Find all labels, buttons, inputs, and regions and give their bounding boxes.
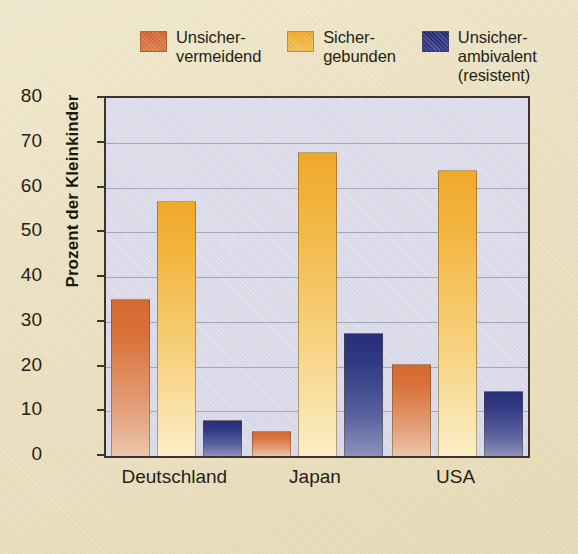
- legend-label-series-0: Unsicher- vermeidend: [176, 28, 261, 66]
- x-tick-label-deutschland: Deutschland: [122, 466, 228, 488]
- legend-label-series-2: Unsicher- ambivalent (resistent): [458, 28, 537, 85]
- bar-japan-series-2[interactable]: [344, 333, 383, 456]
- chart-figure: Unsicher- vermeidend Sicher- gebunden Un…: [0, 0, 578, 554]
- legend-item-sicher-gebunden[interactable]: Sicher- gebunden: [287, 28, 396, 66]
- y-tick-mark: [97, 275, 104, 277]
- bar-japan-series-1[interactable]: [298, 152, 337, 456]
- y-axis-title: Prozent der Kleinkinder: [63, 41, 83, 341]
- plot-area: [104, 96, 530, 458]
- chart-legend: Unsicher- vermeidend Sicher- gebunden Un…: [140, 28, 560, 90]
- legend-label-series-1: Sicher- gebunden: [323, 28, 396, 66]
- y-tick-mark: [97, 409, 104, 411]
- legend-swatch-icon-series-2: [422, 31, 449, 52]
- y-tick-label: 10: [0, 398, 42, 420]
- bar-usa-series-0[interactable]: [392, 364, 431, 456]
- legend-swatch-icon-series-1: [287, 31, 314, 52]
- y-tick-mark: [97, 141, 104, 143]
- y-tick-mark: [97, 365, 104, 367]
- x-tick-label-usa: USA: [436, 466, 475, 488]
- bar-usa-series-1[interactable]: [438, 170, 477, 456]
- bar-deutschland-series-0[interactable]: [111, 299, 150, 456]
- y-tick-label: 0: [0, 443, 42, 465]
- y-tick-mark: [97, 186, 104, 188]
- y-tick-label: 60: [0, 175, 42, 197]
- y-tick-label: 80: [0, 85, 42, 107]
- y-tick-mark: [97, 320, 104, 322]
- legend-item-unsicher-ambivalent[interactable]: Unsicher- ambivalent (resistent): [422, 28, 537, 85]
- y-tick-label: 50: [0, 219, 42, 241]
- y-tick-mark: [97, 454, 104, 456]
- y-tick-label: 30: [0, 309, 42, 331]
- y-tick-label: 20: [0, 354, 42, 376]
- legend-swatch-icon-series-0: [140, 31, 167, 52]
- bar-usa-series-2[interactable]: [484, 391, 523, 456]
- bar-japan-series-0[interactable]: [252, 431, 291, 456]
- gridline: [106, 143, 528, 144]
- legend-item-unsicher-vermeidend[interactable]: Unsicher- vermeidend: [140, 28, 261, 66]
- y-tick-label: 40: [0, 264, 42, 286]
- bar-deutschland-series-1[interactable]: [157, 201, 196, 456]
- y-tick-mark: [97, 230, 104, 232]
- y-tick-label: 70: [0, 130, 42, 152]
- x-tick-label-japan: Japan: [289, 466, 341, 488]
- bar-deutschland-series-2[interactable]: [203, 420, 242, 456]
- y-tick-mark: [97, 96, 104, 98]
